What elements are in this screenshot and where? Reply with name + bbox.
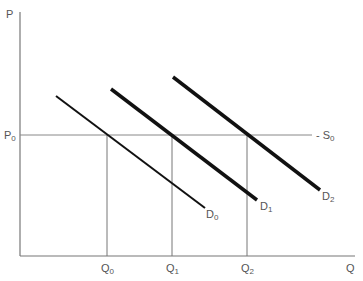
demand-curve-d1: [111, 89, 257, 200]
quantity-label-q1: Q1: [166, 262, 180, 276]
quantity-label-q2: Q2: [241, 262, 255, 276]
x-axis-label: Q: [346, 262, 355, 274]
price-label-p0: P0: [4, 129, 16, 143]
demand-label-d2: D2: [322, 190, 335, 204]
y-axis-label: P: [6, 8, 13, 20]
supply-label-s0: - S0: [316, 129, 335, 143]
quantity-label-q0: Q0: [101, 262, 115, 276]
economics-diagram: P Q P0 - S0 D0 D1 D2 Q0 Q1 Q2: [0, 0, 363, 281]
demand-curve-d0: [56, 96, 205, 208]
demand-label-d0: D0: [206, 208, 219, 222]
demand-label-d1: D1: [260, 200, 273, 214]
